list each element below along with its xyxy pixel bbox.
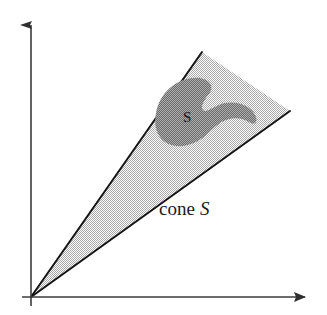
cone-diagram — [0, 0, 327, 315]
cone-label-symbol: S — [195, 198, 210, 219]
cone-label-text: cone — [159, 198, 195, 219]
set-label: S — [183, 110, 191, 125]
cone-fill — [31, 52, 290, 297]
cone-region — [31, 52, 290, 297]
cone-label: coneS — [159, 199, 209, 218]
figure-canvas: coneS S — [0, 0, 327, 315]
